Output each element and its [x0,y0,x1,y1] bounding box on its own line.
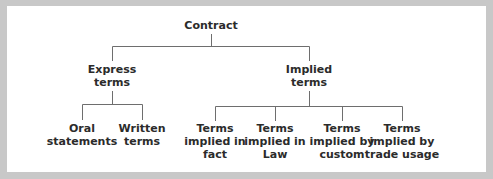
node-written-terms: Written terms [119,122,166,148]
diagram-frame: Contract Express terms Implied terms Ora… [0,0,493,179]
node-terms-implied-in-law: Terms implied in Law [244,122,305,161]
node-terms-implied-by-trade-usage: Terms implied by trade usage [365,122,439,161]
node-oral-statements: Oral statements [47,122,118,148]
node-terms-implied-in-fact: Terms implied in fact [184,122,245,161]
node-implied-terms: Implied terms [286,63,332,89]
node-express-terms: Express terms [88,63,136,89]
node-contract: Contract [184,19,237,32]
